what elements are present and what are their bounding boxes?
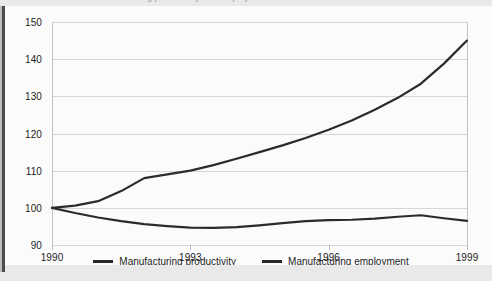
y-axis-tick-label: 110	[26, 165, 42, 176]
chart-page: Chart 5: Index of manufacturing producti…	[0, 0, 492, 281]
y-axis-tick-label: 90	[31, 240, 42, 251]
legend-line-swatch-icon	[93, 260, 113, 263]
y-axis-tick-label: 140	[25, 54, 42, 65]
y-axis-tick-label: 150	[25, 17, 42, 28]
plot-area: 90100110120130140150 1990199319961999	[47, 16, 467, 239]
figure-bottom-margin	[5, 265, 492, 281]
y-axis-tick-label: 100	[25, 202, 42, 213]
figure-panel: 90100110120130140150 1990199319961999 Ma…	[5, 6, 492, 265]
line-manufacturing-productivity	[52, 41, 467, 208]
legend-line-swatch-icon	[262, 260, 282, 263]
chart-caption: Chart 5: Index of manufacturing producti…	[26, 0, 269, 2]
y-axis-tick-label: 120	[25, 128, 42, 139]
y-axis-tick-label: 130	[25, 91, 42, 102]
line-manufacturing-employment	[52, 208, 467, 228]
series-lines	[47, 16, 472, 251]
